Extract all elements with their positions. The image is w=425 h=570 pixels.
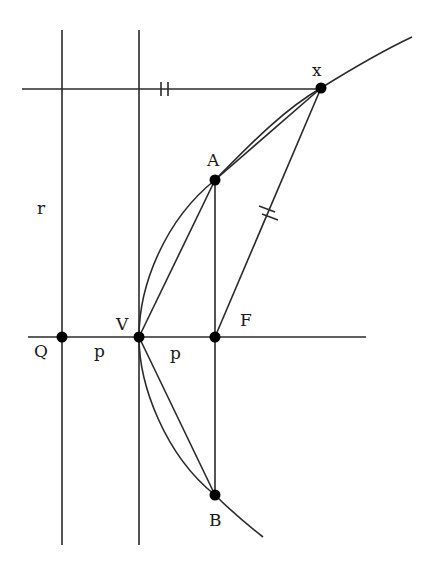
label-V: V [115,314,129,334]
parabola-upper-branch [139,37,412,337]
point-F [210,332,221,343]
point-Q [57,332,68,343]
parabola-lower-branch [139,337,263,537]
segment-xF [215,88,321,337]
label-r: r [37,198,46,218]
point-V [134,332,145,343]
label-B: B [209,510,222,530]
chord-VA [139,180,215,337]
label-p-right: p [170,343,181,363]
label-F: F [240,310,252,330]
label-A: A [206,150,220,170]
point-B [210,490,221,501]
point-x [316,83,327,94]
label-Q: Q [34,341,48,361]
parabola-diagram: x A r V F Q p p B [0,0,425,570]
point-A [210,175,221,186]
label-x: x [312,60,322,80]
segment-xA [215,88,321,180]
label-p-left: p [94,341,105,361]
